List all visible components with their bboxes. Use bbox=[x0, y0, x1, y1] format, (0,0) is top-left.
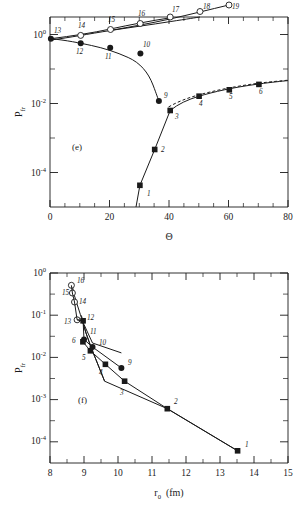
svg-text:9: 9 bbox=[82, 468, 87, 478]
point-17-marker bbox=[167, 14, 173, 20]
point-label-4: 4 bbox=[199, 100, 203, 108]
point-label-11: 11 bbox=[105, 53, 112, 61]
x-ticklabels-e: 0 20 40 60 80 bbox=[48, 212, 293, 222]
point-11-marker bbox=[107, 45, 113, 51]
x-axis-title-f: r0 (fm) bbox=[154, 487, 183, 500]
svg-text:10-4: 10-4 bbox=[31, 166, 47, 178]
point-labels-f: 1 2 3 4 5 6 9 10 11 12 13 14 15 16 bbox=[62, 277, 249, 449]
point-16-marker bbox=[137, 21, 143, 27]
point-label-5: 5 bbox=[229, 93, 233, 101]
point-6-marker bbox=[256, 82, 262, 88]
point-13-marker bbox=[48, 36, 54, 42]
point-label-3: 3 bbox=[119, 389, 124, 397]
panel-e-plot: 100 10-2 10-4 0 20 40 60 80 Pfr Θ (e) bbox=[0, 0, 308, 255]
point-label-12: 12 bbox=[76, 48, 84, 56]
point-label-17: 17 bbox=[172, 6, 180, 14]
curve-f-chain-squares bbox=[83, 342, 238, 451]
markers-e-filled bbox=[48, 36, 262, 188]
svg-text:40: 40 bbox=[164, 212, 174, 222]
x-minor-ticks-f bbox=[67, 273, 271, 463]
svg-text:10-4: 10-4 bbox=[31, 434, 47, 446]
svg-text:80: 80 bbox=[283, 212, 293, 222]
point-10-marker bbox=[137, 51, 143, 57]
y-minor-ticks-e bbox=[50, 69, 288, 138]
point-label-1: 1 bbox=[147, 190, 151, 198]
point-label-1: 1 bbox=[245, 441, 249, 449]
point-label-6: 6 bbox=[259, 88, 263, 96]
point-label-2: 2 bbox=[161, 146, 165, 154]
svg-text:13: 13 bbox=[215, 468, 225, 478]
point-label-10: 10 bbox=[99, 339, 107, 347]
point-label-9: 9 bbox=[164, 92, 168, 100]
svg-text:10-3: 10-3 bbox=[31, 392, 47, 404]
point-9-marker bbox=[156, 98, 162, 104]
svg-text:10: 10 bbox=[113, 468, 123, 478]
y-major-ticks-e bbox=[50, 35, 288, 173]
svg-text:60: 60 bbox=[224, 212, 234, 222]
panel-e: 100 10-2 10-4 0 20 40 60 80 Pfr Θ (e) bbox=[0, 0, 308, 255]
point-label-14: 14 bbox=[78, 22, 86, 30]
svg-text:10-2: 10-2 bbox=[31, 350, 46, 362]
x-axis-title-e: Θ bbox=[165, 231, 172, 242]
point-label-18: 18 bbox=[203, 3, 211, 11]
point-label-4: 4 bbox=[99, 369, 103, 377]
y-axis-title-e: Pfr bbox=[13, 106, 26, 117]
point-label-13: 13 bbox=[54, 27, 62, 35]
point-5-marker bbox=[227, 87, 233, 93]
point-label-11: 11 bbox=[90, 328, 97, 336]
point-label-15: 15 bbox=[108, 16, 116, 24]
point-15-marker bbox=[108, 27, 114, 33]
point-label-14: 14 bbox=[79, 298, 87, 306]
svg-text:0: 0 bbox=[48, 212, 53, 222]
panel-f-plot: 100 10-1 10-2 10-3 10-4 8 9 10 11 12 13 … bbox=[0, 255, 308, 510]
figure-container: 100 10-2 10-4 0 20 40 60 80 Pfr Θ (e) bbox=[0, 0, 308, 510]
panel-label-e: (e) bbox=[72, 142, 82, 152]
point-14-marker bbox=[78, 32, 84, 38]
point-label-5: 5 bbox=[82, 354, 86, 362]
point-label-3: 3 bbox=[174, 113, 179, 121]
svg-text:100: 100 bbox=[33, 28, 47, 40]
svg-text:15: 15 bbox=[283, 468, 293, 478]
point-3-marker bbox=[167, 108, 173, 114]
svg-text:14: 14 bbox=[249, 468, 259, 478]
point-label-15: 15 bbox=[62, 289, 70, 297]
point-label-2: 2 bbox=[174, 398, 178, 406]
point-2-marker bbox=[152, 147, 158, 153]
point-label-13: 13 bbox=[64, 318, 72, 326]
point-label-12: 12 bbox=[87, 314, 95, 322]
svg-text:10-1: 10-1 bbox=[31, 308, 46, 320]
svg-text:11: 11 bbox=[147, 468, 156, 478]
svg-text:12: 12 bbox=[181, 468, 191, 478]
curve-f-main bbox=[72, 286, 237, 451]
curve-e-ascending bbox=[136, 111, 170, 208]
panel-f: 100 10-1 10-2 10-3 10-4 8 9 10 11 12 13 … bbox=[0, 255, 308, 510]
point-label-16: 16 bbox=[138, 10, 146, 18]
y-ticklabels-f: 100 10-1 10-2 10-3 10-4 bbox=[31, 266, 47, 446]
point-label-16: 16 bbox=[77, 277, 85, 285]
svg-text:8: 8 bbox=[48, 468, 53, 478]
curve-upper-open-e bbox=[51, 17, 200, 40]
y-axis-title-f: Pfr bbox=[13, 362, 26, 373]
svg-text:100: 100 bbox=[33, 266, 47, 278]
point-12-marker bbox=[78, 40, 84, 46]
point-label-19: 19 bbox=[232, 3, 240, 11]
point-label-6: 6 bbox=[72, 337, 76, 345]
svg-text:20: 20 bbox=[105, 212, 115, 222]
svg-text:10-2: 10-2 bbox=[31, 97, 46, 109]
point-1-marker bbox=[137, 183, 143, 189]
point-4-marker bbox=[196, 93, 202, 99]
y-ticklabels-e: 100 10-2 10-4 bbox=[31, 28, 47, 178]
point-label-9: 9 bbox=[128, 359, 132, 367]
panel-label-f: (f) bbox=[78, 395, 87, 405]
point-label-10: 10 bbox=[143, 41, 151, 49]
x-ticklabels-f: 8 9 10 11 12 13 14 15 bbox=[48, 468, 293, 478]
